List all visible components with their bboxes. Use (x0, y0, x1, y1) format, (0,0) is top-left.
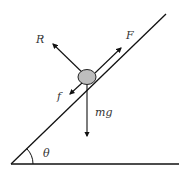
incline-surface (11, 14, 166, 164)
friction-force-arrow (70, 83, 82, 94)
label-applied-force: F (125, 29, 134, 42)
inclined-plane-diagram: R F f mg θ (0, 0, 179, 170)
label-normal-force: R (35, 33, 44, 46)
body-mass (78, 70, 96, 85)
label-friction: f (56, 90, 63, 103)
label-weight: mg (95, 106, 112, 119)
label-angle: θ (43, 147, 50, 160)
angle-arc (27, 149, 33, 164)
